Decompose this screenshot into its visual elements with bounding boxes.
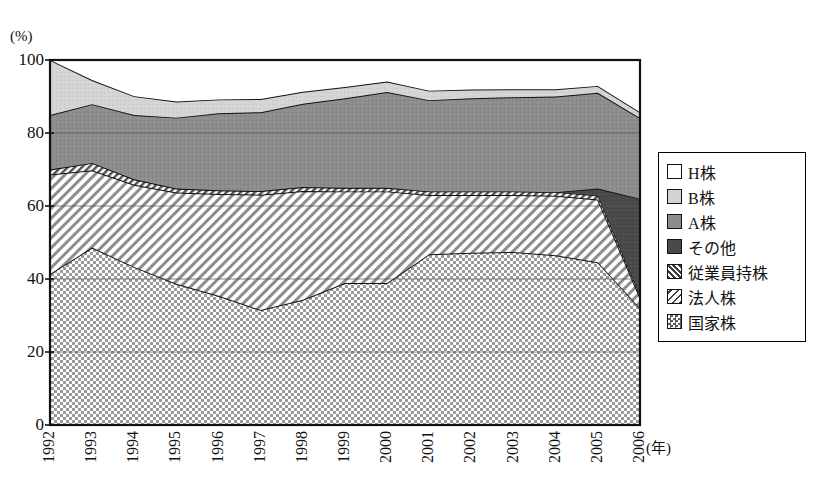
legend-label: 国家株 (688, 310, 736, 334)
legend-item-7[interactable]: 国家株 (667, 309, 799, 334)
legend-item-5[interactable]: 従業員持株 (667, 259, 799, 284)
legend-swatch-icon (667, 214, 682, 229)
legend-label: B株 (688, 185, 715, 209)
legend-swatch-icon (667, 189, 682, 204)
legend-label: 法人株 (688, 285, 736, 309)
stacked-area-chart: (%) 020406080100 19921993199419951996199… (0, 0, 819, 504)
legend-swatch-icon (667, 239, 682, 254)
legend-swatch-icon (667, 164, 682, 179)
legend-swatch-icon (667, 289, 682, 304)
legend-swatch-icon (667, 314, 682, 329)
legend-item-6[interactable]: 法人株 (667, 284, 799, 309)
legend-label: その他 (688, 235, 736, 259)
chart-legend: H株B株A株その他従業員持株法人株国家株 (658, 152, 806, 342)
legend-label: A株 (688, 210, 716, 234)
legend-item-3[interactable]: A株 (667, 209, 799, 234)
legend-item-2[interactable]: B株 (667, 184, 799, 209)
legend-item-4[interactable]: その他 (667, 234, 799, 259)
legend-label: H株 (688, 160, 716, 184)
legend-swatch-icon (667, 264, 682, 279)
legend-label: 従業員持株 (688, 260, 768, 284)
legend-item-1[interactable]: H株 (667, 159, 799, 184)
